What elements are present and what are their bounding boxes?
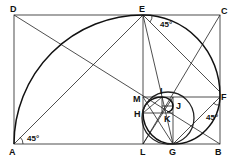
label-M: M — [133, 94, 141, 104]
label-L: L — [140, 147, 146, 157]
angle-label-A: 45° — [27, 134, 39, 143]
diagonal-AC-like — [14, 15, 143, 144]
label-C: C — [221, 6, 228, 16]
diagonal-CL — [143, 15, 220, 144]
label-K: K — [164, 114, 171, 124]
angle-label-F: 45° — [206, 113, 218, 122]
diagonal-DB — [14, 15, 220, 144]
label-E: E — [139, 4, 145, 14]
label-A: A — [9, 147, 16, 157]
label-D: D — [10, 4, 17, 14]
label-J: J — [176, 101, 181, 111]
golden-spiral-diagram: D E C A L G B F M H I J K 45° 45° 45° — [0, 0, 230, 161]
angle-label-E: 45° — [160, 20, 172, 29]
label-B: B — [215, 147, 222, 157]
label-F: F — [221, 92, 227, 102]
label-H: H — [134, 109, 141, 119]
diagonal-EG — [143, 15, 173, 144]
label-I: I — [160, 86, 163, 96]
label-G: G — [169, 147, 176, 157]
